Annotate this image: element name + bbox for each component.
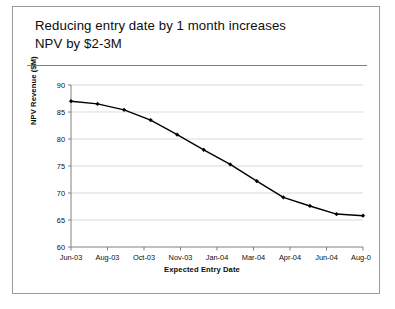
npv-line-chart: NPV Revenue ($M) Expected Entry Date 606… <box>33 77 371 282</box>
page-title: Reducing entry date by 1 month increases… <box>35 17 355 52</box>
svg-text:Mar-04: Mar-04 <box>242 253 265 262</box>
svg-text:65: 65 <box>57 216 65 225</box>
svg-text:70: 70 <box>57 189 65 198</box>
svg-text:75: 75 <box>57 162 65 171</box>
svg-text:85: 85 <box>57 108 65 117</box>
data-series-line <box>71 101 363 215</box>
svg-text:Jun-04: Jun-04 <box>315 253 338 262</box>
chart-plot-area: 60657075808590 Jun-03Aug-03Oct-03Nov-03J… <box>33 77 371 282</box>
svg-text:Aug-03: Aug-03 <box>96 253 120 262</box>
svg-text:Jan-04: Jan-04 <box>206 253 229 262</box>
y-axis-title: NPV Revenue ($M) <box>29 56 38 125</box>
x-axis-tick-labels: Jun-03Aug-03Oct-03Nov-03Jan-04Mar-04Apr-… <box>60 253 371 262</box>
svg-text:Aug-04: Aug-04 <box>351 253 371 262</box>
svg-text:Oct-03: Oct-03 <box>133 253 155 262</box>
presentation-slide: Reducing entry date by 1 month increases… <box>12 6 380 294</box>
svg-text:Apr-04: Apr-04 <box>279 253 301 262</box>
gridlines <box>71 85 363 220</box>
y-axis-tick-labels: 60657075808590 <box>57 81 65 252</box>
svg-text:90: 90 <box>57 81 65 90</box>
svg-text:Nov-03: Nov-03 <box>169 253 193 262</box>
svg-text:Jun-03: Jun-03 <box>60 253 83 262</box>
title-divider <box>27 65 367 66</box>
x-axis-title: Expected Entry Date <box>33 265 371 274</box>
x-axis-tick-marks <box>71 247 363 251</box>
svg-text:80: 80 <box>57 135 65 144</box>
data-point-markers <box>69 99 365 218</box>
svg-text:60: 60 <box>57 243 65 252</box>
